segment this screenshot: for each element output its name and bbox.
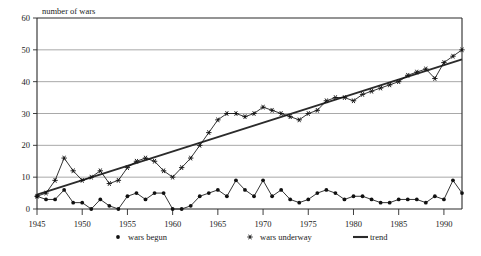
legend-label-wars-begun: wars begun [128,232,168,242]
marker-wars-begun-1956 [135,191,139,195]
marker-wars-begun-1973 [288,198,292,202]
marker-wars-begun-1953 [107,204,111,208]
marker-wars-begun-1974 [297,201,301,205]
marker-wars-begun-1957 [144,198,148,202]
marker-wars-underway-1947 [52,178,57,183]
marker-wars-begun-1961 [180,207,184,211]
marker-wars-begun-1987 [415,198,419,202]
marker-wars-begun-1980 [352,194,356,198]
marker-wars-begun-1984 [388,201,392,205]
marker-wars-underway-1953 [107,181,112,186]
marker-wars-underway-1972 [278,111,283,116]
marker-wars-begun-1971 [270,194,274,198]
marker-wars-begun-1967 [234,178,238,182]
marker-wars-begun-1978 [334,191,338,195]
legend-dot-icon [116,235,120,239]
marker-wars-underway-1967 [233,111,238,116]
marker-wars-begun-1970 [261,178,265,182]
y-tick-label-40: 40 [22,77,31,87]
marker-wars-begun-1990 [442,198,446,202]
marker-wars-underway-1948 [61,156,66,161]
marker-wars-begun-1952 [98,198,102,202]
marker-wars-begun-1985 [397,198,401,202]
marker-wars-begun-1966 [225,194,229,198]
x-tick-label-1955: 1955 [119,219,136,229]
chart-figure: 0102030405060194519501955196019651970197… [0,0,481,256]
marker-wars-begun-1949 [71,201,75,205]
y-tick-label-60: 60 [22,13,31,23]
x-tick-label-1980: 1980 [345,219,362,229]
marker-wars-begun-1983 [379,201,383,205]
marker-wars-begun-1969 [252,194,256,198]
marker-wars-begun-1975 [306,198,310,202]
marker-wars-underway-1968 [242,114,247,119]
marker-wars-begun-1950 [80,201,84,205]
y-tick-label-30: 30 [22,109,31,119]
series-line-wars-begun [37,180,462,209]
marker-wars-begun-1979 [343,198,347,202]
marker-wars-begun-1954 [116,207,120,211]
marker-wars-begun-1972 [279,188,283,192]
marker-wars-begun-1960 [171,207,175,211]
marker-wars-begun-1988 [424,201,428,205]
y-axis-title: number of wars [42,6,95,16]
y-tick-label-10: 10 [22,172,31,182]
x-tick-label-1945: 1945 [29,219,46,229]
marker-wars-begun-1989 [433,194,437,198]
x-tick-label-1970: 1970 [255,219,272,229]
x-tick-label-1985: 1985 [390,219,407,229]
chart-canvas: 0102030405060194519501955196019651970197… [0,0,481,256]
legend-asterisk-icon [247,235,252,240]
trend-line [37,59,462,194]
marker-wars-begun-1976 [315,191,319,195]
marker-wars-begun-1981 [361,194,365,198]
marker-wars-begun-1947 [53,198,57,202]
marker-wars-begun-1968 [243,188,247,192]
marker-wars-begun-1962 [189,204,193,208]
marker-wars-begun-1965 [216,188,220,192]
x-tick-label-1950: 1950 [74,219,91,229]
marker-wars-begun-1982 [370,198,374,202]
x-tick-label-1990: 1990 [435,219,452,229]
marker-wars-begun-1946 [44,198,48,202]
marker-wars-begun-1986 [406,198,410,202]
marker-wars-begun-1977 [324,188,328,192]
marker-wars-begun-1959 [162,191,166,195]
marker-wars-begun-1991 [451,178,455,182]
marker-wars-underway-1964 [206,130,211,135]
marker-wars-begun-1964 [207,191,211,195]
marker-wars-begun-1963 [198,194,202,198]
x-tick-label-1965: 1965 [209,219,226,229]
marker-wars-underway-1971 [269,108,274,113]
marker-wars-underway-1954 [116,178,121,183]
x-tick-label-1960: 1960 [164,219,181,229]
marker-wars-begun-1945 [35,194,39,198]
marker-wars-begun-1955 [126,194,130,198]
x-tick-label-1975: 1975 [300,219,317,229]
y-tick-label-20: 20 [22,140,31,150]
marker-wars-begun-1992 [460,191,464,195]
marker-wars-begun-1958 [153,191,157,195]
y-tick-label-50: 50 [22,45,31,55]
marker-wars-begun-1948 [62,188,66,192]
legend-label-trend: trend [370,232,388,242]
marker-wars-begun-1951 [89,207,93,211]
y-tick-label-0: 0 [26,204,30,214]
legend-label-wars-underway: wars underway [260,232,312,242]
